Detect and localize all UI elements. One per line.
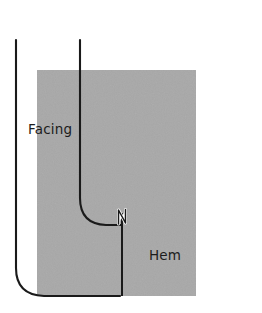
diagram-root: Facing Hem	[0, 0, 262, 313]
diagram-canvas: Facing Hem	[0, 0, 262, 313]
hem-label: Hem	[149, 247, 181, 263]
facing-label: Facing	[28, 121, 72, 137]
